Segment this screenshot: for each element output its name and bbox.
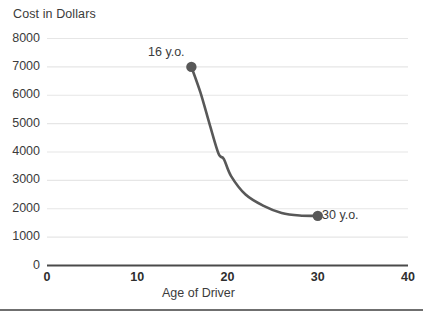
x-axis-title-text: Age of Driver	[162, 286, 235, 300]
y-axis-tick-label: 6000	[2, 87, 40, 101]
y-axis-tick-label: 3000	[2, 172, 40, 186]
annotation-16-yo: 16 y.o.	[148, 45, 185, 59]
y-axis-tick-label: 2000	[2, 201, 40, 215]
y-axis-tick-label: 7000	[2, 59, 40, 73]
y-axis-tick-label: 5000	[2, 116, 40, 130]
data-point-marker	[186, 62, 196, 72]
y-axis-tick-label: 8000	[2, 31, 40, 45]
annotation-30-yo: 30 y.o.	[322, 208, 359, 222]
data-markers-group	[186, 62, 323, 221]
x-axis-tick-label: 10	[117, 270, 157, 284]
x-axis-tick-label: 40	[388, 270, 423, 284]
insurance-cost-line-chart: Cost in Dollars 010002000300040005000600…	[0, 0, 423, 323]
x-axis-tick-label: 30	[298, 270, 338, 284]
y-axis-tick-label: 1000	[2, 229, 40, 243]
x-axis-tick-label: 20	[208, 270, 248, 284]
x-axis-title: Age of Driver	[0, 286, 423, 300]
bottom-divider-rule	[0, 309, 423, 311]
y-axis-tick-label: 4000	[2, 144, 40, 158]
x-axis-tick-label: 0	[27, 270, 67, 284]
data-series-line	[191, 67, 317, 216]
